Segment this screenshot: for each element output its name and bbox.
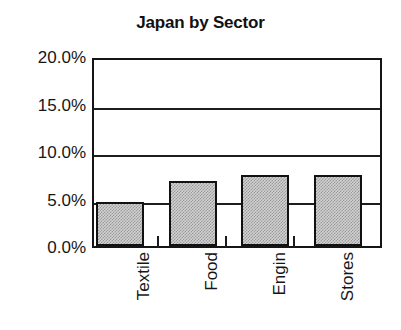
x-tick-label-stores: Stores bbox=[338, 252, 358, 301]
x-tick-label-textile: Textile bbox=[134, 252, 154, 300]
y-tick-label-10: 10.0% bbox=[0, 143, 86, 163]
x-tick-2 bbox=[225, 236, 227, 248]
plot-area bbox=[92, 58, 382, 248]
x-tick-1 bbox=[157, 236, 159, 248]
x-tick-label-engin: Engin bbox=[270, 252, 290, 295]
bars-layer bbox=[94, 60, 380, 246]
x-axis-labels: Textile Food Engin Stores bbox=[92, 252, 382, 330]
y-tick-label-0: 0.0% bbox=[0, 238, 86, 258]
y-tick-label-5: 5.0% bbox=[0, 191, 86, 211]
y-tick-label-15: 15.0% bbox=[0, 96, 86, 116]
x-axis-ticks bbox=[92, 236, 382, 248]
chart-figure: Japan by Sector 20.0% 15.0% 10.0% 5.0% 0… bbox=[0, 0, 401, 330]
y-axis: 20.0% 15.0% 10.0% 5.0% 0.0% bbox=[0, 0, 86, 330]
y-tick-label-20: 20.0% bbox=[0, 48, 86, 68]
x-tick-3 bbox=[293, 236, 295, 248]
x-tick-label-food: Food bbox=[202, 252, 222, 291]
